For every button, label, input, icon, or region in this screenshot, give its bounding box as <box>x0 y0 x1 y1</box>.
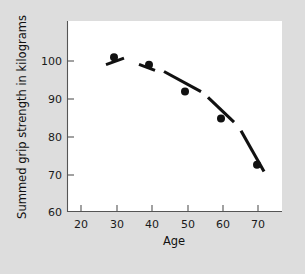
x-tick-label-30: 30 <box>110 218 124 231</box>
grip-strength-scatter-chart: 100 90 80 70 60 20 30 40 50 60 70 Age Su… <box>0 0 305 274</box>
data-point-age-60 <box>217 114 225 122</box>
y-tick-label-70: 70 <box>48 169 62 182</box>
y-tick-label-80: 80 <box>48 131 62 144</box>
chart-figure: 100 90 80 70 60 20 30 40 50 60 70 Age Su… <box>0 0 305 274</box>
y-tick-label-90: 90 <box>48 93 62 106</box>
plot-area-background <box>67 21 282 212</box>
data-point-age-70 <box>253 161 261 169</box>
y-tick-label-100: 100 <box>41 55 62 68</box>
data-point-age-50 <box>181 88 189 96</box>
x-tick-label-70: 70 <box>251 218 265 231</box>
x-axis-title: Age <box>163 234 185 248</box>
data-point-age-40 <box>145 61 153 69</box>
data-point-age-30 <box>110 53 118 61</box>
x-tick-label-50: 50 <box>181 218 195 231</box>
y-tick-label-60: 60 <box>48 206 62 219</box>
x-tick-label-20: 20 <box>74 218 88 231</box>
x-tick-label-60: 60 <box>216 218 230 231</box>
y-axis-title: Summed grip strength in kilograms <box>15 15 29 219</box>
x-tick-label-40: 40 <box>145 218 159 231</box>
